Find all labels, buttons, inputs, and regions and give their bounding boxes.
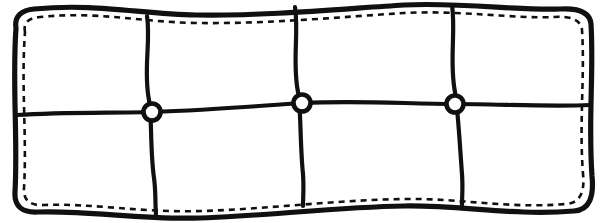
junction-node-3 [447,96,464,113]
quilt-diagram-svg [0,0,606,223]
quilt-diagram-canvas [0,0,606,223]
junction-node-1 [144,104,161,121]
junction-node-2 [294,95,311,112]
